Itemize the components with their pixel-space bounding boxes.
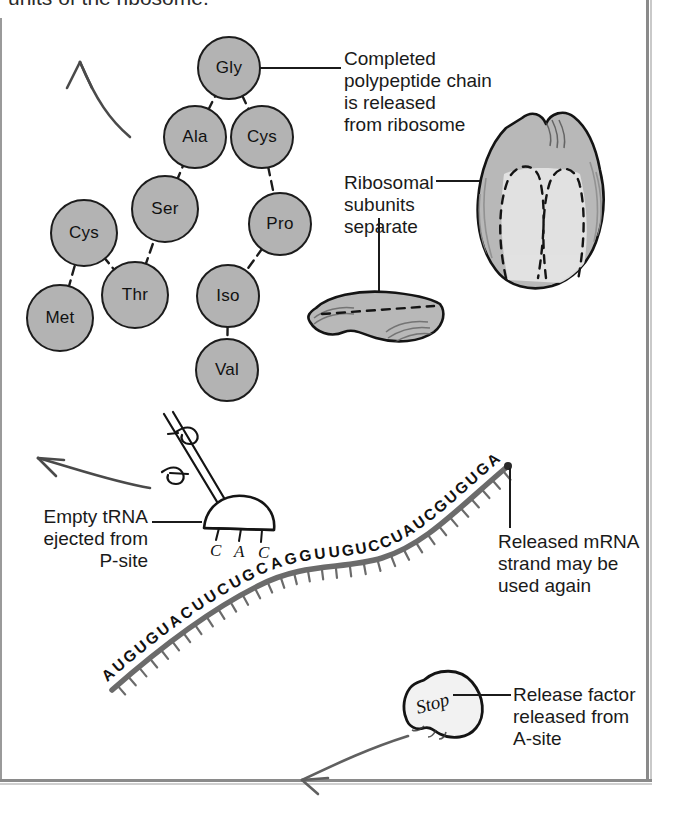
leader-small-subunit — [378, 218, 380, 298]
amino-acid-label: Gly — [216, 58, 242, 78]
amino-acid-thr: Thr — [101, 261, 169, 329]
amino-acid-label: Pro — [266, 214, 293, 234]
amino-acid-ser: Ser — [131, 175, 199, 243]
small-ribosomal-subunit — [300, 288, 460, 350]
annotation-line: Released mRNA — [498, 531, 673, 553]
amino-acid-label: Ala — [182, 127, 207, 147]
figure-canvas: units of the ribosome. Met Cys Thr — [0, 0, 673, 815]
amino-acid-gly: Gly — [197, 36, 261, 100]
annotation-released-mrna: Released mRNA strand may be used again — [498, 531, 673, 597]
amino-acid-label: Thr — [122, 285, 148, 305]
large-ribosomal-subunit — [460, 108, 640, 298]
annotation-line: strand may be — [498, 553, 673, 575]
leader-completed-chain — [259, 67, 341, 69]
amino-acid-ala: Ala — [163, 105, 227, 169]
leader-release-factor — [453, 694, 511, 696]
amino-acid-label: Cys — [69, 223, 99, 243]
annotation-line: used again — [498, 575, 673, 597]
annotation-line: polypeptide chain — [344, 70, 534, 92]
mrna-base: G — [283, 549, 299, 568]
amino-acid-iso: Iso — [196, 264, 260, 328]
mrna-base: C — [253, 558, 270, 578]
annotation-line: A-site — [513, 728, 673, 750]
amino-acid-met: Met — [26, 284, 94, 352]
mrna-base: G — [341, 541, 355, 559]
mrna-base: U — [328, 543, 341, 561]
mrna-base: A — [268, 553, 284, 573]
polypeptide-arrow — [67, 62, 130, 137]
mrna-base: U — [313, 544, 326, 562]
annotation-release-factor: Release factor released from A-site — [513, 684, 673, 750]
annotation-line: Release factor — [513, 684, 673, 706]
amino-acid-label: Cys — [247, 127, 277, 147]
amino-acid-label: Met — [45, 308, 74, 328]
amino-acid-val: Val — [195, 338, 259, 402]
leader-released-mrna — [509, 468, 511, 528]
amino-acid-cys-2: Cys — [230, 105, 294, 169]
amino-acid-label: Ser — [151, 199, 178, 219]
amino-acid-label: Iso — [216, 286, 240, 306]
annotation-line: Completed — [344, 48, 534, 70]
annotation-line: released from — [513, 706, 673, 728]
mrna-base: G — [298, 546, 313, 565]
amino-acid-pro: Pro — [248, 192, 312, 256]
amino-acid-cys-1: Cys — [50, 199, 118, 267]
release-factor-arrow — [230, 730, 440, 800]
amino-acid-label: Val — [215, 360, 239, 380]
